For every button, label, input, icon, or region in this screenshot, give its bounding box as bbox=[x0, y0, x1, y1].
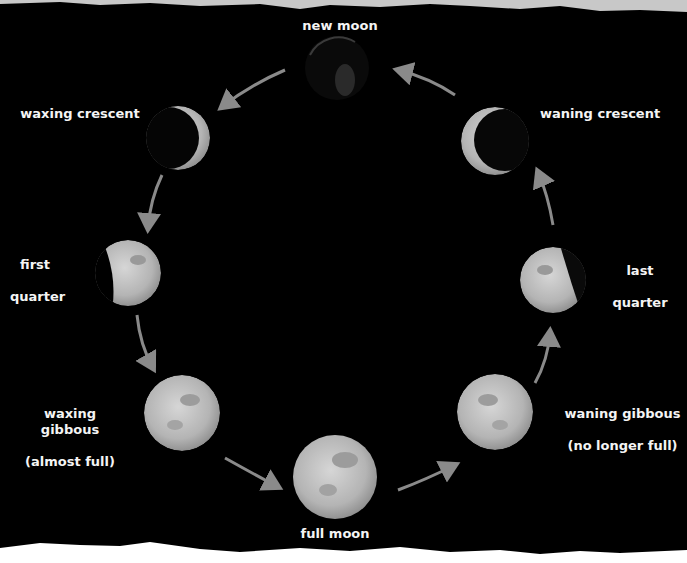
label-waxing-crescent: waxing crescent bbox=[20, 106, 140, 122]
label-waning-gibbous-line1: waning gibbous bbox=[560, 406, 685, 422]
moon-waxing-gibbous bbox=[144, 375, 220, 451]
moon-new bbox=[305, 36, 369, 100]
label-waxing-gibbous-line1: waxing gibbous bbox=[15, 406, 125, 438]
label-waxing-gibbous-line2: (almost full) bbox=[15, 454, 125, 470]
label-first-quarter: first quarter bbox=[10, 241, 60, 321]
label-waning-gibbous: waning gibbous (no longer full) bbox=[560, 390, 685, 470]
label-waning-gibbous-line2: (no longer full) bbox=[560, 438, 685, 454]
label-last-quarter: last quarter bbox=[610, 247, 670, 327]
label-new-moon: new moon bbox=[290, 18, 390, 34]
label-waxing-gibbous: waxing gibbous (almost full) bbox=[15, 390, 125, 486]
label-last-quarter-line2: quarter bbox=[610, 295, 670, 311]
label-waning-crescent: waning crescent bbox=[535, 106, 665, 122]
moon-full bbox=[293, 435, 377, 519]
moon-waning-gibbous bbox=[457, 374, 533, 450]
label-first-quarter-line2: quarter bbox=[10, 289, 60, 305]
label-first-quarter-line1: first bbox=[10, 257, 60, 273]
label-last-quarter-line1: last bbox=[610, 263, 670, 279]
moon-phases-diagram: new moon waxing crescent first quarter w… bbox=[0, 0, 687, 563]
label-full-moon: full moon bbox=[290, 526, 380, 542]
